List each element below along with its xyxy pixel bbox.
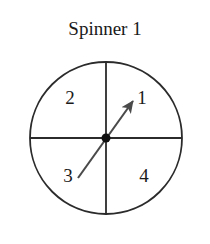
sector-label-3: 3 — [63, 165, 73, 186]
spinner-figure: Spinner 1 1 2 3 4 — [0, 0, 210, 244]
sector-label-4: 4 — [139, 165, 149, 186]
sector-label-2: 2 — [65, 87, 75, 108]
spinner-diagram-canvas: 1 2 3 4 — [0, 0, 210, 244]
spinner-center-dot — [102, 134, 111, 143]
sector-label-1: 1 — [137, 87, 147, 108]
